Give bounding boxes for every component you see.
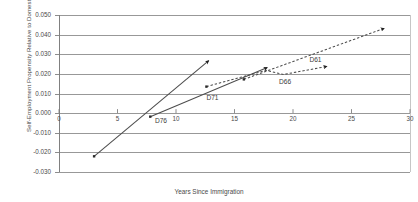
x-axis-tick-label: 30 bbox=[401, 115, 418, 122]
y-axis-tick-label: 0.020 bbox=[17, 70, 51, 77]
y-axis-tick-label: 0.050 bbox=[17, 11, 51, 18]
y-axis-tick-label: 0.010 bbox=[17, 90, 51, 97]
x-axis-tick-label: 25 bbox=[343, 115, 361, 122]
series-start-marker-d76 bbox=[93, 155, 95, 157]
series-label-d61: D61 bbox=[309, 56, 321, 63]
y-axis-tick-label: -0.030 bbox=[17, 168, 51, 175]
series-label-d66: D66 bbox=[279, 78, 291, 85]
series-label-d76: D76 bbox=[155, 117, 167, 124]
plot-area bbox=[0, 0, 418, 202]
series-label-d71: D71 bbox=[206, 94, 218, 101]
chart-container: Self-Employment Propensity Relative to D… bbox=[0, 0, 418, 202]
series-start-marker-d71 bbox=[149, 115, 151, 117]
y-axis-tick-label: 0.000 bbox=[17, 109, 51, 116]
y-axis-tick-label: 0.030 bbox=[17, 50, 51, 57]
series-line-d61 bbox=[244, 28, 384, 79]
series-line-d66 bbox=[206, 66, 327, 86]
series-start-marker-d66 bbox=[205, 85, 207, 87]
y-axis-tick-label: -0.010 bbox=[17, 129, 51, 136]
x-axis-tick-label: 10 bbox=[167, 115, 185, 122]
x-axis-tick-label: 20 bbox=[284, 115, 302, 122]
x-axis-tick-label: 15 bbox=[226, 115, 244, 122]
series-start-marker-d61 bbox=[243, 78, 245, 80]
y-axis-tick-label: -0.020 bbox=[17, 148, 51, 155]
y-axis-tick-label: 0.040 bbox=[17, 31, 51, 38]
x-axis-tick-label: 0 bbox=[50, 115, 68, 122]
x-axis-tick-label: 5 bbox=[109, 115, 127, 122]
